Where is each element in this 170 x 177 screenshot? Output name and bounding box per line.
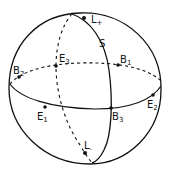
sphere-diagram: L+ S E3 B1 B2 E1 B3 E2 L-: [0, 0, 170, 177]
point-E1: [43, 105, 47, 109]
label-S: S: [99, 38, 105, 49]
point-L-minus: [83, 151, 87, 155]
point-E3: [54, 64, 58, 68]
label-L-plus: L+: [91, 14, 103, 27]
point-E2: [151, 93, 155, 97]
point-B3: [109, 106, 113, 110]
point-L-plus: [82, 16, 86, 20]
meridian-S-solid: [72, 14, 111, 163]
label-E1: E1: [37, 111, 48, 124]
equator-front-solid: [10, 84, 161, 109]
label-E2: E2: [147, 99, 158, 112]
equator-back-dashed: [10, 63, 160, 84]
label-B3: B3: [112, 111, 123, 124]
